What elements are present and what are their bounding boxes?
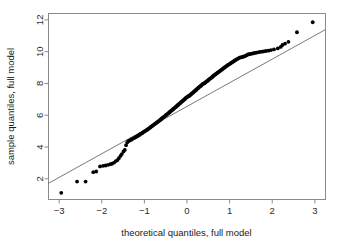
y-tick-label-4: 4 [34, 144, 45, 149]
x-tick-label-3: 3 [312, 205, 317, 216]
data-point [295, 30, 299, 34]
y-tick-label-8: 8 [34, 81, 45, 86]
x-tick-label-1: 1 [227, 205, 232, 216]
data-point [84, 180, 88, 184]
x-tick-label-0: 0 [184, 205, 189, 216]
x-tick-label--2: −2 [96, 205, 107, 216]
qq-plot-figure: 24681012 −3−2−10123 theoretical quantile… [0, 0, 345, 244]
data-point [75, 180, 79, 184]
x-tick-label-2: 2 [270, 205, 275, 216]
data-point [94, 170, 98, 174]
x-tick-label--1: −1 [139, 205, 150, 216]
x-axis-title: theoretical quantiles, full model [121, 227, 251, 238]
data-point [287, 40, 291, 44]
y-tick-label-6: 6 [34, 113, 45, 118]
y-tick-label-12: 12 [34, 15, 45, 26]
data-point [283, 42, 287, 46]
y-tick-label-10: 10 [34, 46, 45, 57]
data-point [59, 191, 63, 195]
figure-background [0, 0, 345, 244]
y-axis-title: sample quantiles, full model [5, 48, 16, 165]
data-point [272, 48, 276, 52]
data-point [123, 148, 127, 152]
x-tick-label--3: −3 [54, 205, 65, 216]
qq-plot-svg: 24681012 −3−2−10123 theoretical quantile… [0, 0, 345, 244]
data-point [311, 20, 315, 24]
y-tick-label-2: 2 [34, 176, 45, 181]
